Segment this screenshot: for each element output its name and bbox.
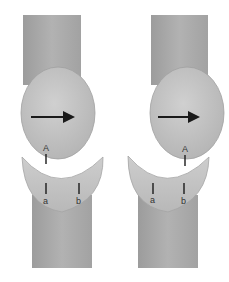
label-A: A — [43, 143, 49, 153]
label-a: a — [150, 195, 155, 205]
left-joint: A a b — [21, 15, 103, 268]
label-b: b — [76, 196, 81, 206]
label-b: b — [181, 196, 186, 206]
joint-diagram: A a b A a b — [0, 0, 229, 282]
label-A: A — [182, 144, 188, 154]
convex-head — [21, 67, 95, 159]
right-joint: A a b — [128, 15, 224, 268]
label-a: a — [43, 196, 48, 206]
